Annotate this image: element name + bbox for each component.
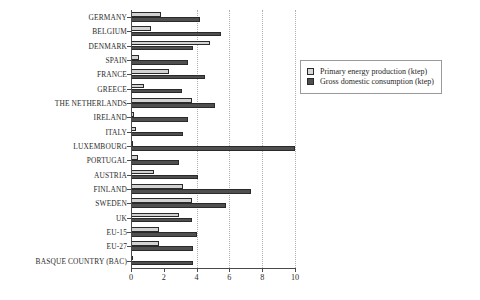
legend-label: Gross domestic consumption (ktep) <box>320 77 434 86</box>
x-axis-tick-label: 8 <box>260 273 264 282</box>
bar-production <box>131 84 144 89</box>
bar-rows: GERMANYBELGIUMDENMARKSPAINFRANCEGREECETH… <box>0 10 480 268</box>
bar-consumption <box>131 132 183 137</box>
chart-row: EU-27 <box>0 239 480 253</box>
bar-consumption <box>131 46 193 51</box>
bar-production <box>131 184 183 189</box>
bar-production <box>131 170 154 175</box>
x-axis-tick-label: 6 <box>227 273 231 282</box>
chart-row: BASQUE COUNTRY (BAC) <box>0 254 480 268</box>
y-axis-line <box>131 10 132 268</box>
chart-row: BELGIUM <box>0 24 480 38</box>
legend-swatch-consumption <box>307 78 314 85</box>
bar-production <box>131 241 159 246</box>
bar-consumption <box>131 189 251 194</box>
category-label: FINLAND <box>94 185 128 194</box>
legend-swatch-production <box>307 68 314 75</box>
chart-row: FINLAND <box>0 182 480 196</box>
bar-consumption <box>131 146 295 151</box>
bar-consumption <box>131 117 188 122</box>
bar-consumption <box>131 160 179 165</box>
x-axis-tick-label: 10 <box>291 273 299 282</box>
category-label: ITALY <box>105 127 127 136</box>
bar-production <box>131 41 210 46</box>
category-label: GERMANY <box>89 13 127 22</box>
bar-production <box>131 26 151 31</box>
chart-row: DENMARK <box>0 39 480 53</box>
x-axis-tick-label: 4 <box>195 273 199 282</box>
bar-consumption <box>131 103 215 108</box>
legend-label: Primary energy production (ktep) <box>320 67 427 76</box>
x-axis-line <box>131 268 295 269</box>
bar-consumption <box>131 232 197 237</box>
chart-row: IRELAND <box>0 110 480 124</box>
category-label: SPAIN <box>106 56 127 65</box>
chart-row: SWEDEN <box>0 196 480 210</box>
bar-production <box>131 198 192 203</box>
bar-consumption <box>131 89 182 94</box>
category-label: BELGIUM <box>92 27 127 36</box>
category-label: EU-27 <box>107 242 127 251</box>
chart-row: PORTUGAL <box>0 153 480 167</box>
x-axis-tick <box>295 268 296 272</box>
bar-production <box>131 69 169 74</box>
bar-consumption <box>131 17 200 22</box>
bar-production <box>131 227 159 232</box>
category-label: UK <box>116 213 127 222</box>
bar-consumption <box>131 261 193 266</box>
bar-production <box>131 55 139 60</box>
bar-production <box>131 213 179 218</box>
legend-item: Primary energy production (ktep) <box>307 67 434 76</box>
category-label: IRELAND <box>94 113 127 122</box>
bar-consumption <box>131 75 205 80</box>
category-label: DENMARK <box>89 41 127 50</box>
bar-production <box>131 98 192 103</box>
bar-consumption <box>131 60 188 65</box>
bar-consumption <box>131 218 192 223</box>
category-label: SWEDEN <box>95 199 127 208</box>
x-axis-tick-label: 0 <box>129 273 133 282</box>
category-label: GREECE <box>97 84 127 93</box>
chart-row: AUSTRIA <box>0 168 480 182</box>
bar-consumption <box>131 246 193 251</box>
chart-row: ITALY <box>0 125 480 139</box>
chart-row: GERMANY <box>0 10 480 24</box>
chart-row: EU-15 <box>0 225 480 239</box>
chart-row: LUXEMBOURG <box>0 139 480 153</box>
bar-production <box>131 12 161 17</box>
legend-item: Gross domestic consumption (ktep) <box>307 77 434 86</box>
category-label: FRANCE <box>97 70 127 79</box>
x-axis-tick-label: 2 <box>162 273 166 282</box>
chart-row: THE NETHERLANDS <box>0 96 480 110</box>
bar-consumption <box>131 175 198 180</box>
x-axis-ticks: 0246810 <box>0 268 480 292</box>
category-label: BASQUE COUNTRY (BAC) <box>36 256 127 265</box>
legend: Primary energy production (ktep)Gross do… <box>300 60 442 94</box>
bar-consumption <box>131 203 226 208</box>
category-label: LUXEMBOURG <box>73 142 127 151</box>
bar-chart: GERMANYBELGIUMDENMARKSPAINFRANCEGREECETH… <box>0 0 480 300</box>
chart-row: UK <box>0 211 480 225</box>
category-label: THE NETHERLANDS <box>55 99 127 108</box>
category-label: EU-15 <box>107 228 127 237</box>
bar-consumption <box>131 32 221 37</box>
category-label: PORTUGAL <box>87 156 127 165</box>
category-label: AUSTRIA <box>94 170 127 179</box>
